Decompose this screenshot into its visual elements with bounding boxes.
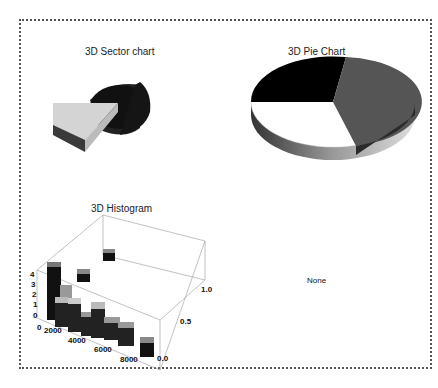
svg-text:1: 1 [33,300,38,309]
svg-text:0.0: 0.0 [157,354,169,363]
svg-text:0: 0 [33,311,38,320]
svg-text:8000: 8000 [120,355,138,364]
histogram-bars [47,249,154,357]
pie-chart [251,56,422,160]
svg-text:6000: 6000 [94,345,112,354]
svg-text:1.0: 1.0 [201,285,213,294]
svg-text:0.5: 0.5 [180,317,192,326]
svg-text:4000: 4000 [68,336,86,345]
svg-text:4: 4 [30,270,35,279]
svg-text:2: 2 [32,290,37,299]
charts-canvas: 4 3 2 1 0 0 2000 4000 6000 8000 0.0 0.5 … [0,0,438,388]
sector-chart [53,82,150,152]
svg-text:2000: 2000 [44,326,62,335]
svg-text:3: 3 [31,280,36,289]
svg-text:0: 0 [37,323,42,332]
